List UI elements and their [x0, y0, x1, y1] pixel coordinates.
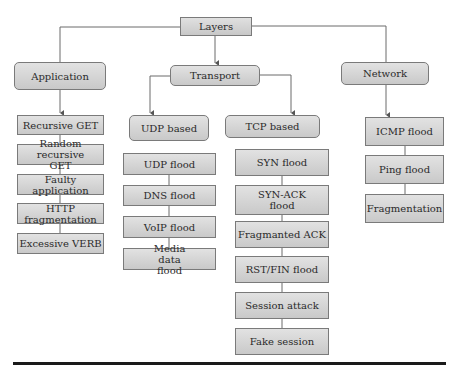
node-fragmanted-ack: Fragmanted ACK [235, 221, 329, 248]
bottom-rule [13, 362, 446, 365]
node-fragmentation: Fragmentation [365, 194, 444, 223]
node-transport: Transport [170, 65, 260, 86]
node-dns-flood: DNS flood [123, 185, 216, 206]
node-media-data-flood: Media data flood [123, 248, 216, 270]
node-network: Network [341, 62, 429, 85]
node-rst-fin-flood: RST/FIN flood [235, 256, 329, 283]
node-icmp-flood: ICMP flood [365, 117, 444, 146]
node-fake-session: Fake session [235, 328, 329, 355]
node-syn-flood: SYN flood [235, 149, 329, 176]
node-random-recursive-get: Random recursive GET [17, 144, 104, 165]
node-layers: Layers [180, 17, 252, 36]
node-excessive-verb: Excessive VERB [17, 233, 104, 254]
node-udp-flood: UDP flood [123, 153, 216, 175]
node-application: Application [14, 62, 106, 90]
node-session-attack: Session attack [235, 292, 329, 319]
node-voip-flood: VoIP flood [123, 216, 216, 238]
node-udp-based: UDP based [129, 115, 209, 141]
node-recursive-get: Recursive GET [17, 115, 104, 135]
node-ping-flood: Ping flood [365, 155, 444, 184]
node-syn-ack-flood: SYN-ACK flood [235, 185, 329, 215]
node-faulty-application: Faulty application [17, 174, 104, 195]
node-tcp-based: TCP based [225, 115, 320, 138]
node-http-fragmentation: HTTP fragmentation [17, 203, 104, 224]
